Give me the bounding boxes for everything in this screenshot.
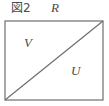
region-label-v: V bbox=[24, 36, 32, 50]
figure-container: 図2 R V U bbox=[0, 0, 109, 106]
region-label-u: U bbox=[71, 64, 80, 78]
diagonal-divider-line bbox=[5, 21, 103, 100]
figure-diagram bbox=[0, 0, 109, 106]
